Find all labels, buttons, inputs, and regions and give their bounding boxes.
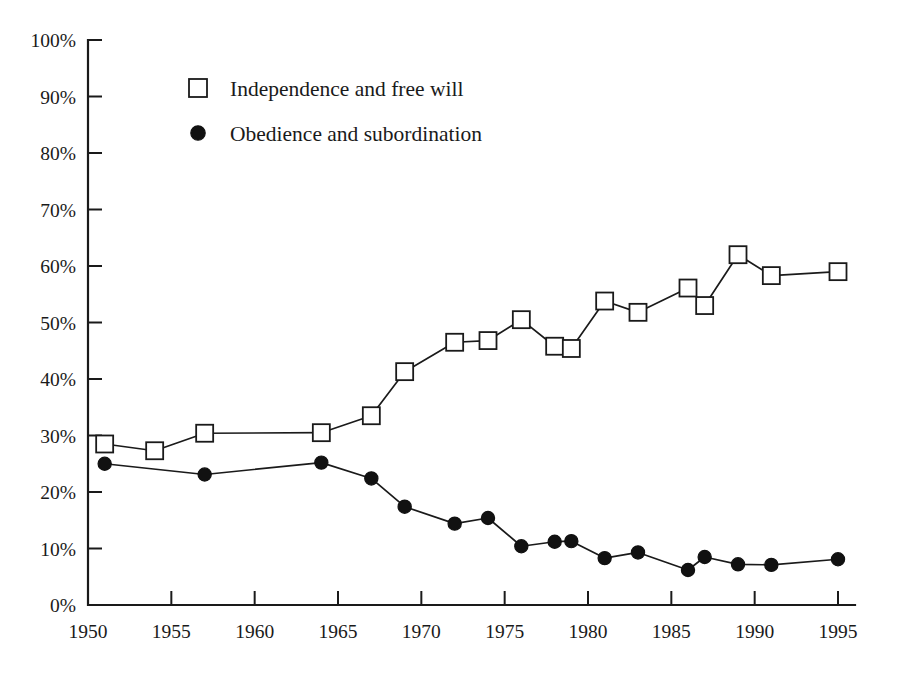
data-point-square xyxy=(763,267,780,284)
y-tick-label: 70% xyxy=(40,200,76,221)
x-tick-label: 1970 xyxy=(402,621,441,642)
y-tick-label: 60% xyxy=(40,256,76,277)
y-tick-label: 50% xyxy=(40,313,76,334)
x-tick-label: 1960 xyxy=(235,621,274,642)
chart-legend: Independence and free willObedience and … xyxy=(189,77,482,146)
y-tick-label: 20% xyxy=(40,482,76,503)
x-tick-label: 1995 xyxy=(819,621,858,642)
data-point-square xyxy=(480,332,497,349)
chart-container: 0%10%20%30%40%50%60%70%80%90%100% 195019… xyxy=(0,0,897,680)
data-point-square xyxy=(596,293,613,310)
y-axis-tick-labels: 0%10%20%30%40%50%60%70%80%90%100% xyxy=(31,30,77,616)
data-point-circle xyxy=(515,540,528,553)
data-point-square xyxy=(196,425,213,442)
series-2 xyxy=(98,456,845,577)
data-point-circle xyxy=(548,535,561,548)
y-tick-label: 80% xyxy=(40,143,76,164)
data-point-circle xyxy=(565,535,578,548)
data-point-circle xyxy=(365,472,378,485)
data-point-circle xyxy=(448,517,461,530)
data-point-square xyxy=(696,297,713,314)
legend-label: Obedience and subordination xyxy=(230,122,482,146)
legend-marker-circle xyxy=(191,126,205,140)
y-tick-label: 10% xyxy=(40,539,76,560)
data-point-circle xyxy=(765,558,778,571)
data-point-square xyxy=(146,442,163,459)
x-tick-label: 1975 xyxy=(485,621,524,642)
data-point-circle xyxy=(481,511,494,524)
data-point-square xyxy=(630,304,647,321)
data-point-circle xyxy=(731,558,744,571)
y-tick-label: 30% xyxy=(40,426,76,447)
y-tick-label: 90% xyxy=(40,87,76,108)
data-point-circle xyxy=(198,468,211,481)
y-tick-label: 100% xyxy=(31,30,77,51)
x-tick-label: 1950 xyxy=(69,621,108,642)
x-tick-label: 1990 xyxy=(735,621,774,642)
series-line xyxy=(105,255,838,451)
data-point-circle xyxy=(598,552,611,565)
x-axis-tick-labels: 1950195519601965197019751980198519901995 xyxy=(69,621,858,642)
legend-label: Independence and free will xyxy=(230,77,463,101)
data-point-square xyxy=(396,363,413,380)
data-point-square xyxy=(730,246,747,263)
data-point-square xyxy=(546,338,563,355)
data-point-circle xyxy=(831,553,844,566)
x-tick-label: 1955 xyxy=(152,621,191,642)
data-point-square xyxy=(363,407,380,424)
chart-series xyxy=(96,246,846,576)
data-point-circle xyxy=(631,546,644,559)
x-tick-label: 1985 xyxy=(652,621,691,642)
data-point-square xyxy=(313,424,330,441)
data-point-square xyxy=(446,334,463,351)
data-point-square xyxy=(680,280,697,297)
data-point-square xyxy=(563,340,580,357)
data-point-circle xyxy=(681,563,694,576)
data-point-circle xyxy=(315,456,328,469)
data-point-circle xyxy=(398,500,411,513)
data-point-circle xyxy=(698,550,711,563)
y-tick-label: 40% xyxy=(40,369,76,390)
legend-marker-square xyxy=(189,79,207,97)
line-chart: 0%10%20%30%40%50%60%70%80%90%100% 195019… xyxy=(0,0,897,680)
y-tick-label: 0% xyxy=(50,595,76,616)
data-point-square xyxy=(830,263,847,280)
data-point-circle xyxy=(98,457,111,470)
series-1 xyxy=(96,246,846,459)
x-tick-label: 1965 xyxy=(319,621,358,642)
x-tick-label: 1980 xyxy=(569,621,608,642)
data-point-square xyxy=(96,435,113,452)
series-line xyxy=(105,463,838,570)
data-point-square xyxy=(513,311,530,328)
